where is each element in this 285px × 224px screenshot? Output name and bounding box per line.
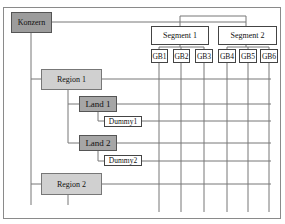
node-segment-1: Segment 1 [151,26,209,45]
node-land-2: Land 2 [79,135,117,151]
node-gb4: GB4 [218,49,236,63]
node-dummy-2: Dummy2 [104,155,142,166]
node-region-1: Region 1 [41,69,102,90]
node-segment-2: Segment 2 [218,26,277,45]
node-gb1: GB1 [151,49,168,63]
node-dummy-1: Dummy1 [104,116,142,127]
node-land-1: Land 1 [79,96,117,112]
node-region-2: Region 2 [41,173,102,195]
node-gb6: GB6 [260,49,278,63]
node-gb5: GB5 [239,49,257,63]
node-gb2: GB2 [173,49,190,63]
node-gb3: GB3 [195,49,213,63]
node-konzern: Konzern [11,12,52,33]
